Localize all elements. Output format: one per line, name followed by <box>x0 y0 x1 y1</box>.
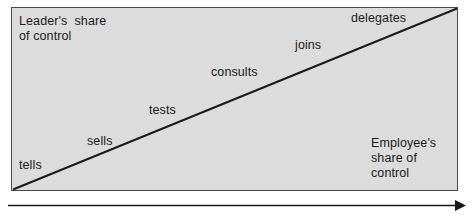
continuum-step-joins: joins <box>295 38 321 53</box>
leadership-continuum-diagram: Leader's share of control Employee's sha… <box>0 0 472 216</box>
bottom-axis-arrowhead-icon <box>455 200 466 211</box>
continuum-step-delegates: delegates <box>351 11 406 26</box>
continuum-step-tests: tests <box>149 103 176 118</box>
continuum-step-consults: consults <box>211 65 258 80</box>
leader-share-label: Leader's share of control <box>19 14 106 44</box>
continuum-step-sells: sells <box>87 134 113 149</box>
employee-share-label: Employee's share of control <box>371 136 436 181</box>
continuum-step-tells: tells <box>19 158 42 173</box>
